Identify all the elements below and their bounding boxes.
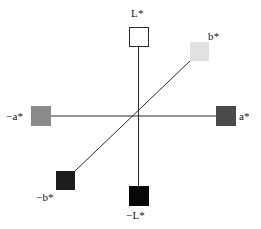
swatch-a-negative [31, 106, 51, 126]
label-b-positive: b* [208, 31, 219, 42]
label-a-negative: −a* [6, 111, 23, 122]
swatch-l-positive [129, 27, 149, 47]
swatch-b-negative [56, 171, 75, 190]
swatch-a-positive [216, 106, 236, 126]
label-l-negative: −L* [126, 210, 145, 221]
swatch-l-negative [129, 186, 149, 206]
label-l-positive: L* [131, 8, 144, 19]
cielab-axes-diagram: L* −L* −a* a* b* −b* [0, 0, 261, 229]
label-b-negative: −b* [36, 192, 54, 203]
swatch-b-positive [190, 42, 209, 61]
label-a-positive: a* [239, 111, 250, 122]
